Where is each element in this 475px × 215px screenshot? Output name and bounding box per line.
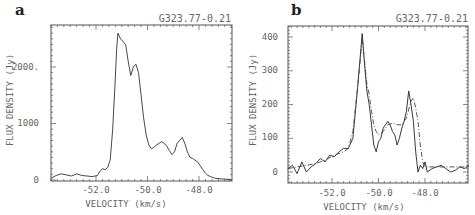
panel-a-xtick-52: -52.0 [82,185,109,195]
panel-b-source-title: G323.77-0.21 [396,13,468,24]
panel-a-spectrum-line [51,33,231,179]
panel-b-frame [288,26,468,183]
panel-a-xtick-50: -50.0 [134,185,161,195]
panel-a-ylabel: FLUX DENSITY (Jy) [5,54,15,146]
panel-b-label: b [291,1,302,19]
panel-a-ytick-1000: 1000 [17,118,39,128]
panel-a-ticks [51,25,232,181]
panel-b-ticks [288,26,468,183]
panel-a-xlabel: VELOCITY (km/s) [85,199,166,209]
panel-a-source-title: G323.77-0.21 [159,13,231,24]
panel-b-observed-line [288,34,469,174]
panel-b-xtick-50: -50.0 [365,188,392,198]
panel-b-xtick-52: -52.0 [318,188,345,198]
panel-a-xtick-48: -48.0 [185,185,212,195]
panel-a-frame [51,25,232,181]
figure: a G323.77-0.21 2000. 1000 0 -52.0 -50.0 … [0,0,475,215]
panel-a: a G323.77-0.21 2000. 1000 0 -52.0 -50.0 … [5,1,232,209]
panel-b-model-line [288,37,469,169]
panel-b-ytick-100: 100 [262,132,278,142]
panel-b-ytick-0: 0 [273,167,278,177]
panel-a-ytick-2000: 2000. [12,62,39,72]
panel-b: b G323.77-0.21 400 300 200 100 0 -52.0 -… [248,1,469,212]
panel-b-xlabel: VELOCITY (km/s) [323,202,404,212]
panel-b-ytick-400: 400 [262,32,278,42]
panel-a-ytick-0: 0 [34,175,39,185]
panel-b-xtick-48: -48.0 [411,188,438,198]
panel-b-ylabel: FLUX DENSITY (Jy) [248,54,258,146]
panel-b-ytick-300: 300 [262,65,278,75]
panel-b-ytick-200: 200 [262,99,278,109]
panel-a-label: a [15,1,25,19]
